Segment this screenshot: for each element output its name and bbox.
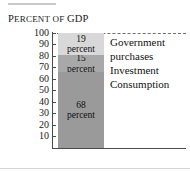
- y-tick-label-30: 30: [14, 108, 49, 118]
- y-tick-label-100: 100: [14, 28, 49, 38]
- bar-segment-government-purchases[interactable]: 19 percent: [58, 33, 104, 55]
- segment-value-government: 19: [76, 34, 86, 45]
- y-tick-label-20: 20: [14, 120, 49, 130]
- stacked-bar: 19 percent 15 percent 68 percent: [58, 33, 104, 148]
- y-tick-label-80: 80: [14, 51, 49, 61]
- x-axis-line: [52, 148, 186, 149]
- legend: Government purchases Investment Consumpt…: [110, 35, 190, 91]
- legend-item-consumption: Consumption: [110, 77, 190, 91]
- y-tick-label-60: 60: [14, 74, 49, 84]
- y-tick-label-10: 10: [14, 131, 49, 141]
- y-tick-40: [52, 102, 56, 103]
- y-tick-label-40: 40: [14, 97, 49, 107]
- y-tick-30: [52, 113, 56, 114]
- bar-segment-investment[interactable]: 15 percent: [58, 55, 104, 72]
- y-tick-20: [52, 125, 56, 126]
- segment-value-investment: 15: [76, 55, 86, 64]
- y-tick-70: [52, 67, 56, 68]
- y-tick-label-90: 90: [14, 39, 49, 49]
- y-tick-80: [52, 56, 56, 57]
- chart-figure: PERCENT OF GDP 100 90 80 70 60 50 40 30 …: [0, 0, 190, 171]
- segment-unit-investment: percent: [67, 64, 95, 73]
- legend-item-investment: Investment: [110, 63, 190, 77]
- segment-unit-consumption: percent: [67, 110, 95, 121]
- legend-item-government-line2: purchases: [110, 49, 190, 63]
- plot-area: 100 90 80 70 60 50 40 30 20 10 19 percen…: [0, 0, 190, 171]
- y-tick-label-50: 50: [14, 85, 49, 95]
- y-tick-60: [52, 79, 56, 80]
- y-tick-50: [52, 90, 56, 91]
- bottom-divider: [0, 168, 190, 169]
- legend-item-government-line1: Government: [110, 35, 190, 49]
- segment-value-consumption: 68: [76, 100, 86, 111]
- bar-segment-consumption[interactable]: 68 percent: [58, 72, 104, 148]
- y-tick-label-70: 70: [14, 62, 49, 72]
- y-tick-90: [52, 44, 56, 45]
- segment-unit-government: percent: [67, 44, 95, 55]
- y-tick-10: [52, 136, 56, 137]
- y-tick-100: [52, 33, 56, 34]
